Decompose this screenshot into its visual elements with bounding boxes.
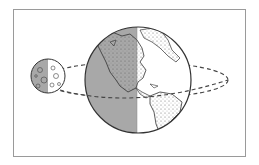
moon [31,59,65,93]
earth-moon-diagram [0,0,259,165]
moon-night-side [31,59,48,93]
earth [85,27,191,134]
